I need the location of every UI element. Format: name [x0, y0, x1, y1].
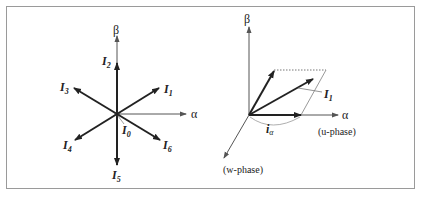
right-vector-decomposition-diagram: β α I1 iα (u-phase) (w-phase)	[223, 12, 356, 176]
label-I4: I4	[62, 138, 72, 154]
label-I1-right: I1	[323, 87, 333, 103]
parallelogram-side	[301, 70, 326, 115]
alpha-label-right: α	[342, 108, 349, 122]
label-I0: I0	[121, 123, 131, 139]
i-alpha-arc	[250, 117, 300, 125]
beta-label-left: β	[113, 23, 119, 37]
vector-I1	[117, 88, 159, 114]
vector-I4	[75, 114, 117, 140]
label-I5: I5	[111, 168, 121, 184]
vector-diagrams: β α I2 I1 I3 I4 I5 I6 I0 β α I1 iα (u-ph…	[0, 0, 421, 197]
label-I1: I1	[163, 82, 173, 98]
label-I6: I6	[162, 138, 172, 154]
label-I3: I3	[59, 80, 69, 96]
I1-leader	[298, 88, 322, 92]
label-i-alpha: iα	[266, 122, 274, 137]
w-phase-label: (w-phase)	[223, 164, 263, 176]
w-phase-axis	[224, 115, 249, 158]
left-hexagon-vector-diagram: β α I2 I1 I3 I4 I5 I6 I0	[59, 23, 198, 184]
beta-label-right: β	[244, 12, 250, 26]
u-phase-label: (u-phase)	[318, 126, 356, 138]
vector-I3	[74, 88, 117, 114]
label-I2: I2	[101, 54, 111, 70]
alpha-label-left: α	[191, 107, 198, 121]
